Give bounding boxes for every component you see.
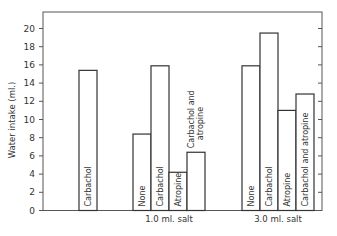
y-tick-label: 2 (29, 187, 35, 197)
y-tick-label: 0 (29, 206, 35, 216)
y-tick-label: 12 (24, 96, 35, 106)
group-label: 1.0 ml. salt (145, 214, 193, 224)
group-label: 3.0 ml. salt (254, 214, 302, 224)
bar-label: Carbachol (265, 166, 274, 206)
y-tick-label: 16 (24, 60, 36, 70)
y-tick-label: 8 (29, 133, 35, 143)
bar-label: Carbachol (156, 166, 165, 206)
bar-label: Carbachol and (187, 90, 196, 148)
bar-label: atropine (196, 107, 205, 140)
bar-label: None (138, 186, 147, 207)
bar-label: Atropine (174, 173, 183, 207)
y-tick-label: 20 (24, 24, 36, 34)
y-tick-label: 4 (29, 169, 35, 179)
bar-label: Carbachol and atropine (301, 113, 310, 207)
bar-label: Atropine (283, 173, 292, 207)
chart: 02468101214161820Water intake (ml.)Carba… (0, 0, 337, 236)
bar-label: Carbachol (84, 166, 93, 206)
y-tick-label: 10 (24, 115, 36, 125)
bar-label: None (247, 186, 256, 207)
bar (187, 152, 205, 210)
y-tick-label: 18 (24, 42, 36, 52)
y-axis-label: Water intake (ml.) (7, 82, 17, 159)
y-tick-label: 14 (24, 78, 36, 88)
y-tick-label: 6 (29, 151, 35, 161)
